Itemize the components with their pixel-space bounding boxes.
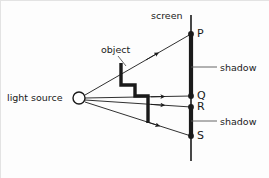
point-label-r: R: [197, 101, 205, 112]
point-dot-s: [188, 133, 194, 139]
point-label-s: S: [197, 130, 204, 141]
ray-to-p-arrow: [146, 54, 157, 60]
light-source-label: light source: [7, 93, 63, 103]
screen-label: screen: [151, 11, 183, 21]
object-label: object: [101, 45, 130, 55]
point-dot-q: [188, 93, 194, 99]
diagram-canvas: [1, 1, 269, 178]
point-label-p: P: [197, 28, 204, 39]
ray-to-r: [85, 100, 191, 107]
ray-to-s: [85, 102, 191, 136]
point-dot-p: [188, 31, 194, 37]
optics-shadow-diagram: light source object screen shadow shadow…: [0, 0, 269, 178]
shadow-bottom-label: shadow: [220, 117, 256, 127]
point-dot-r: [188, 104, 194, 110]
light-source-circle: [73, 92, 85, 104]
ray-to-r-arrow: [151, 104, 163, 105]
shadow-top-label: shadow: [220, 63, 256, 73]
